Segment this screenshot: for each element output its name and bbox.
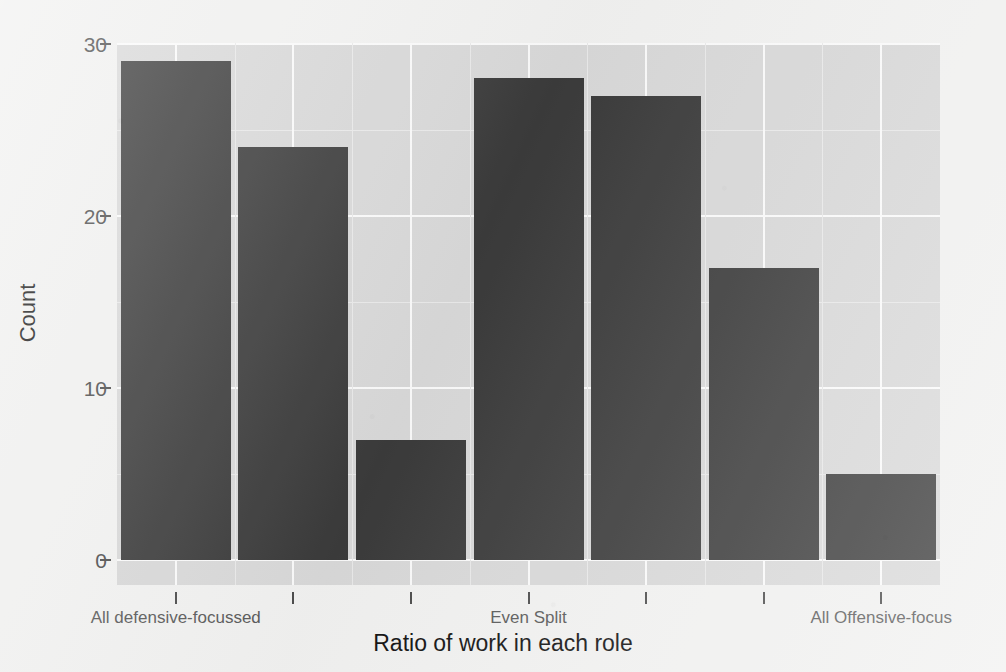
bar [826, 474, 936, 560]
x-tick-mark-4 [528, 592, 530, 604]
bar [121, 61, 231, 560]
gridline-minor-x-1 [235, 43, 236, 585]
bar [474, 78, 584, 560]
bar [238, 147, 348, 560]
y-tick-mark-10 [100, 387, 111, 389]
x-tick-mark-5 [645, 592, 647, 604]
x-tick-mark-3 [410, 592, 412, 604]
x-tick-mark-6 [763, 592, 765, 604]
y-tick-mark-0 [100, 559, 111, 561]
gridline-minor-x-3 [470, 43, 471, 585]
y-tick-label-10: 10 [35, 378, 107, 399]
gridline-minor-x-6 [822, 43, 823, 585]
x-tick-label-4: Even Split [490, 608, 567, 628]
x-tick-label-1: All defensive-focussed [91, 608, 261, 628]
chart-figure: 0102030 Count All defensive-focussedEven… [0, 0, 1006, 672]
gridline-minor-x-2 [352, 43, 353, 585]
x-axis-title: Ratio of work in each role [0, 630, 1006, 657]
plot-panel [117, 43, 940, 585]
bar [591, 96, 701, 560]
x-tick-mark-1 [175, 592, 177, 604]
y-tick-mark-20 [100, 215, 111, 217]
gridline-minor-x-5 [705, 43, 706, 585]
bar [356, 440, 466, 560]
bar [709, 268, 819, 560]
y-axis-title: Count [15, 253, 41, 373]
y-tick-label-30: 30 [35, 34, 107, 55]
y-tick-mark-30 [100, 43, 111, 45]
x-tick-mark-2 [292, 592, 294, 604]
y-tick-label-20: 20 [35, 206, 107, 227]
y-tick-label-0: 0 [35, 550, 107, 571]
x-tick-mark-7 [880, 592, 882, 604]
x-tick-label-7: All Offensive-focus [810, 608, 951, 628]
gridline-minor-x-4 [587, 43, 588, 585]
